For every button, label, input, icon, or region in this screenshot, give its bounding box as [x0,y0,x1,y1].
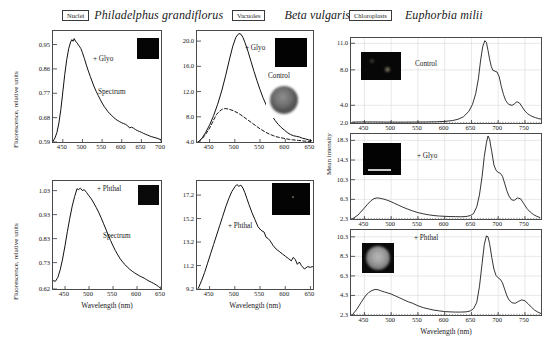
y-tick-philadelphus-glyo: 0.95 [26,40,50,47]
speck [385,67,390,72]
y-tick-beta-glyo-control: 20.0 [170,37,194,44]
plot-area-euphorbia-control [350,37,542,124]
y-tick-beta-phthal: 9.2 [170,285,194,292]
y-tick-philadelphus-phthal: 0.62 [26,285,50,292]
y-tick-beta-glyo-control: 4.0 [170,138,194,145]
x-tick-euphorbia-control: 750 [519,124,529,131]
x-tick-euphorbia-glyo: 550 [412,220,422,227]
inset-micrograph-chloroplast-glyo [363,143,401,175]
x-tick-philadelphus-glyo: 450 [57,143,67,150]
annotation-phthal-3: + Phthal [414,234,438,242]
y-tick-philadelphus-phthal: 1.03 [26,186,50,193]
x-tick-beta-glyo-control: 450 [204,143,214,150]
column-header-nuclei: Nuclei Philadelphus grandiflorus [62,8,223,23]
tag-vacuoles: Vacuoles [232,10,265,21]
y-tick-euphorbia-control: 4.0 [324,101,348,108]
x-tick-philadelphus-glyo: 700 [155,143,165,150]
annotation-glyo-1: + Glyo [93,55,113,63]
cell-blob [366,246,390,270]
x-tick-philadelphus-phthal: 650 [155,290,165,297]
species-beta: Beta vulgaris [284,8,350,23]
x-tick-euphorbia-control: 550 [412,124,422,131]
x-tick-euphorbia-phthal: 600 [439,316,449,323]
column-header-chloroplasts: Chloroplasts Euphorbia milii [349,8,483,23]
y-tick-euphorbia-phthal: 10.3 [324,232,348,239]
x-axis-label-col3: Wavelength (nm) [420,327,471,336]
y-tick-euphorbia-glyo: 10.3 [324,175,348,182]
y-tick-euphorbia-glyo: 14.3 [324,156,348,163]
x-tick-beta-phthal: 450 [204,290,214,297]
y-tick-euphorbia-control: 2.0 [324,119,348,126]
annotation-phthal-1: + Phthal [97,185,121,193]
inset-micrograph-vacuole-glyo [275,38,307,67]
tag-nuclei: Nuclei [62,10,89,21]
y-tick-philadelphus-phthal: 0.73 [26,258,50,265]
x-tick-euphorbia-phthal: 500 [385,316,395,323]
figure-root: Nuclei Philadelphus grandiflorus Vacuole… [0,0,550,350]
speck [292,196,294,198]
y-tick-beta-phthal: 13.2 [170,238,194,245]
x-tick-euphorbia-control: 500 [385,124,395,131]
annotation-control-2: Control [415,60,437,68]
y-tick-beta-phthal: 17.2 [170,191,194,198]
x-axis-label-col1: Wavelength (nm) [81,301,132,310]
x-tick-euphorbia-phthal: 650 [465,316,475,323]
x-tick-euphorbia-glyo: 500 [385,220,395,227]
y-tick-beta-glyo-control: 12.0 [170,87,194,94]
x-tick-philadelphus-phthal: 600 [131,290,141,297]
y-axis-label-left-top: Fluorescence, relative units [12,71,20,148]
inset-micrograph-nuclei-glyo [137,38,159,59]
x-tick-euphorbia-control: 600 [439,124,449,131]
y-tick-euphorbia-glyo: 18.3 [324,136,348,143]
x-tick-philadelphus-phthal: 550 [107,290,117,297]
annotation-phthal-2: + Phthal [228,222,252,230]
y-tick-euphorbia-phthal: 4.3 [324,291,348,298]
y-tick-philadelphus-glyo: 0.77 [26,89,50,96]
y-tick-philadelphus-phthal: 0.93 [26,210,50,217]
x-tick-euphorbia-phthal: 750 [519,316,529,323]
x-tick-euphorbia-glyo: 450 [358,220,368,227]
scale-bar [368,169,392,172]
y-tick-euphorbia-phthal: 6.3 [324,271,348,278]
x-tick-euphorbia-phthal: 700 [492,316,502,323]
cell-blob [270,86,298,114]
annotation-glyo-3: + Glyo [417,152,437,160]
x-tick-euphorbia-glyo: 700 [492,220,502,227]
y-tick-philadelphus-glyo: 0.86 [26,64,50,71]
speck [370,59,374,63]
x-tick-euphorbia-control: 650 [465,124,475,131]
annotation-spectrum-2: Spectrum [103,232,131,240]
y-tick-beta-phthal: 11.2 [170,261,194,268]
x-tick-beta-phthal: 550 [254,290,264,297]
x-tick-beta-phthal: 650 [305,290,315,297]
x-tick-philadelphus-phthal: 500 [83,290,93,297]
y-tick-euphorbia-glyo: 2.3 [324,215,348,222]
y-tick-beta-phthal: 15.2 [170,214,194,221]
y-tick-beta-glyo-control: 8.0 [170,112,194,119]
inset-micrograph-vacuole-phthal [272,183,310,215]
y-tick-euphorbia-control: 11.0 [324,39,348,46]
x-tick-euphorbia-control: 700 [492,124,502,131]
x-tick-euphorbia-phthal: 550 [412,316,422,323]
x-axis-label-col2: Wavelength (nm) [229,301,280,310]
chart-svg-euphorbia-control [351,38,541,123]
annotation-glyo-2: + Glyo [245,44,265,52]
x-tick-euphorbia-phthal: 450 [358,316,368,323]
x-tick-beta-glyo-control: 500 [229,143,239,150]
tag-chloroplasts: Chloroplasts [349,10,392,21]
x-tick-philadelphus-glyo: 550 [96,143,106,150]
species-philadelphus: Philadelphus grandiflorus [94,8,223,23]
x-tick-beta-glyo-control: 550 [254,143,264,150]
x-tick-philadelphus-glyo: 600 [116,143,126,150]
x-tick-euphorbia-control: 450 [358,124,368,131]
x-tick-euphorbia-glyo: 650 [465,220,475,227]
species-euphorbia: Euphorbia milii [405,8,483,23]
x-tick-philadelphus-glyo: 500 [77,143,87,150]
annotation-spectrum-1: Spectrum [98,88,126,96]
x-tick-beta-glyo-control: 600 [279,143,289,150]
x-tick-philadelphus-glyo: 650 [135,143,145,150]
y-axis-label-left-bottom: Fluorescence, relative units [12,223,20,300]
x-tick-philadelphus-phthal: 450 [59,290,69,297]
inset-micrograph-nuclei-phthal [138,185,159,205]
y-tick-euphorbia-phthal: 8.3 [324,252,348,259]
